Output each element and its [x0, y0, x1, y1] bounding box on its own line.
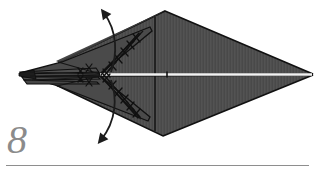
- bottom-divider-rule: [6, 165, 309, 166]
- step-number: 8: [7, 120, 27, 160]
- origami-figure: 8: [0, 0, 317, 174]
- origami-diagram-canvas: [0, 0, 317, 174]
- left-tip-point: [19, 70, 36, 79]
